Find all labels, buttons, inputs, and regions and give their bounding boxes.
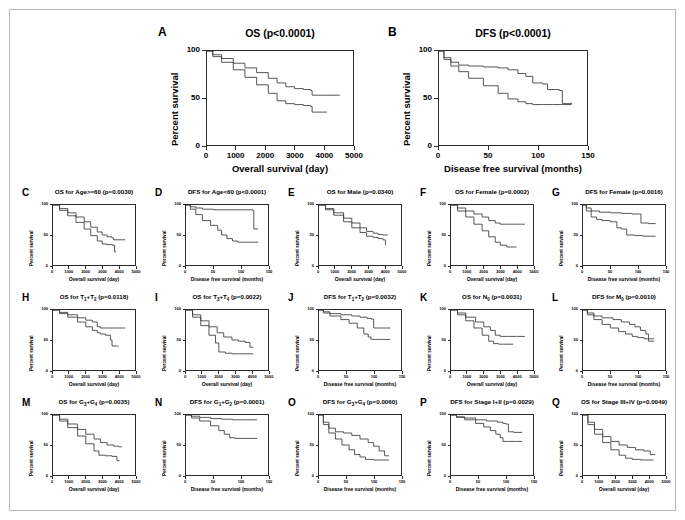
y-tick-label: 50 [432,443,446,447]
curve-layer [186,415,268,475]
x-tick-label: 100 [371,480,378,484]
y-tickmark [183,309,186,310]
y-tick-label: 100 [167,307,181,311]
y-tick-label: 50 [300,233,314,237]
x-tick-label: 2000 [81,480,90,484]
plot-area [582,204,666,266]
plot-frame [582,309,666,371]
x-axis-label: Disease free survival (months) [300,382,420,387]
y-tick-label: 100 [34,307,48,311]
x-tick-label: 0 [581,375,583,379]
survival-curve-low [583,205,656,236]
x-tick-label: 5000 [398,270,407,274]
x-tick-label: 150 [531,480,538,484]
x-axis-label: Overall survival (day) [34,487,154,492]
survival-curve-high [207,51,340,95]
survival-curve-low [186,310,253,354]
y-tick-label: 0 [167,369,181,373]
plot-frame [52,309,136,371]
y-tickmark [316,235,319,236]
panel-g: GDFS for Female (p=0.0016)05010005010015… [552,188,680,288]
panel-m: MOS for G3+G4 (p=0.0035)0501000100020003… [22,398,150,498]
y-tickmark [50,340,53,341]
y-tick-label: 0 [432,474,446,478]
y-tickmark [50,235,53,236]
y-tick-label: 100 [167,202,181,206]
panel-e: EOS for Male (p=0.0340)05010001000200030… [288,188,416,288]
x-axis-label: Disease free survival (months) [408,164,618,174]
survival-curve-high [583,205,656,224]
y-axis-label: Percent survival [163,231,168,267]
survival-curve-low [439,51,571,105]
x-tick-label: 4000 [513,375,522,379]
curve-layer [53,310,135,370]
survival-curve-low [53,205,116,252]
panel-title: DFS for Stage I+II (p=0.0029) [432,399,552,405]
y-axis-label: Percent survival [30,441,35,477]
x-tick-label: 50 [476,480,480,484]
panel-letter: A [158,26,167,38]
panel-title: DFS for G3+G4 (p=0.0060) [300,399,420,408]
y-tick-label: 0 [300,264,314,268]
panel-letter: D [155,188,162,198]
plot-frame [318,309,402,371]
y-axis-label: Percent survival [428,336,433,372]
x-tick-label: 2000 [479,270,488,274]
panel-title: DFS (p<0.0001) [408,28,618,39]
x-tick-label: 5000 [132,270,141,274]
survival-curve-low [186,205,258,242]
x-axis-label: Disease free survival (months) [167,277,287,282]
plot-frame [185,414,269,476]
survival-curve-high [53,310,125,328]
plot-frame [206,50,354,146]
x-tick-label: 2000 [214,375,223,379]
x-tick-label: 150 [663,270,670,274]
plot-frame [52,204,136,266]
x-tick-label: 4000 [115,375,124,379]
plot-area [206,50,354,146]
y-tick-label: 50 [564,233,578,237]
x-tick-label: 5000 [132,375,141,379]
panel-h: HOS for T1+T2 (p=0.0118)0501000100020003… [22,293,150,393]
plot-frame [185,309,269,371]
y-tickmark [316,445,319,446]
survival-curve-low [53,415,119,461]
x-tick-label: 3000 [98,270,107,274]
x-axis-label: Overall survival (day) [432,277,552,282]
x-tick-label: 5000 [132,480,141,484]
panel-letter: I [155,293,158,303]
survival-curve-low [319,205,385,245]
x-axis-label: Overall survival (day) [167,382,287,387]
plot-area [318,414,402,476]
x-tick-label: 0 [449,480,451,484]
panel-f: FOS for Female (p=0.0002)050100010002000… [420,188,548,288]
plot-area [450,309,534,371]
x-tick-label: 150 [581,152,594,160]
plot-area [582,309,666,371]
plot-area [185,309,269,371]
panel-title: OS for Male (p=0.0340) [300,189,420,195]
x-tick-label: 100 [531,152,544,160]
panel-letter: Q [552,398,560,408]
y-tickmark [580,309,583,310]
y-tick-label: 50 [167,443,181,447]
x-tick-label: 4000 [315,152,333,160]
y-tick-label: 50 [167,338,181,342]
survival-curve-high [451,310,525,336]
y-axis-label: Percent survival [428,441,433,477]
curve-layer [583,205,665,265]
x-tick-label: 0 [317,375,319,379]
x-tickmark [354,146,355,150]
x-tick-label: 150 [399,375,406,379]
y-tick-label: 100 [34,202,48,206]
x-tick-label: 5000 [662,480,671,484]
panel-title: OS for N0 (p=0.0031) [432,294,552,303]
y-tickmark [183,204,186,205]
panel-n: NDFS for G1+G2 (p=0.0001)050100050100150… [155,398,283,498]
x-tick-label: 100 [371,375,378,379]
y-tick-label: 100 [176,46,200,54]
y-tick-label: 100 [564,202,578,206]
x-tick-label: 0 [317,270,319,274]
panel-letter: B [388,26,397,38]
panel-letter: C [22,188,29,198]
